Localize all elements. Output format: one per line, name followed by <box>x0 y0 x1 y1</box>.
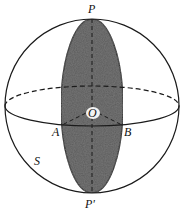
label-b: B <box>124 125 132 139</box>
diagram-canvas: P P' O A B S <box>0 0 183 218</box>
label-a: A <box>51 125 60 139</box>
label-o: O <box>88 106 97 120</box>
label-s: S <box>34 154 40 168</box>
label-p-prime: P' <box>84 197 95 211</box>
sphere-diagram: P P' O A B S <box>0 0 183 218</box>
label-p: P <box>87 2 96 16</box>
